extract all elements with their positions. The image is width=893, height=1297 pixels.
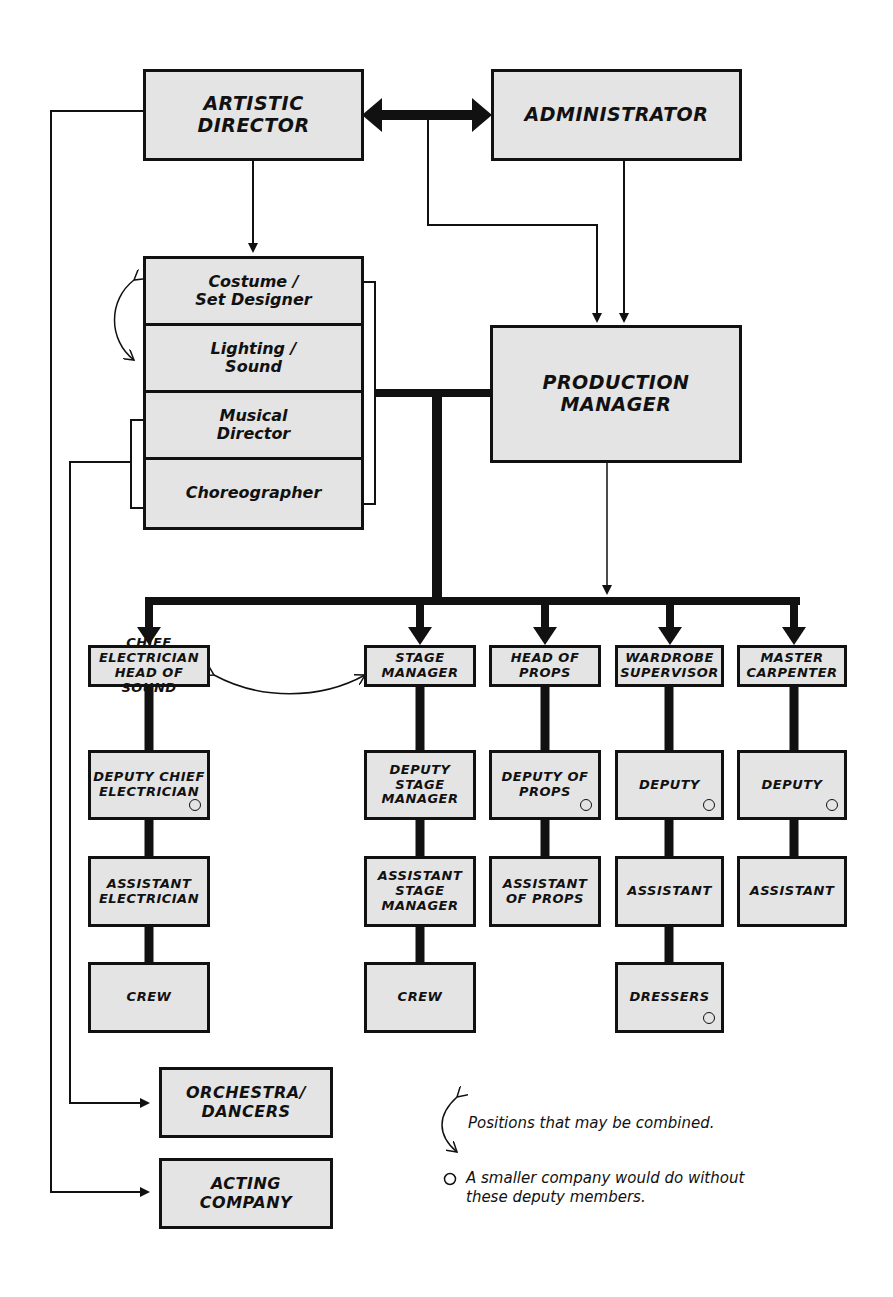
production-manager-label: Production Manager (543, 372, 690, 416)
dressers-box[interactable]: Dressers (615, 962, 724, 1033)
deputy-of-props-box[interactable]: Deputy of Props (489, 750, 601, 820)
creative-team-stack: Costume / Set Designer Lighting / Sound … (143, 256, 364, 530)
optional-marker-icon (703, 1012, 715, 1024)
musical-director-box[interactable]: Musical Director (146, 393, 361, 460)
wardrobe-supervisor-box[interactable]: Wardrobe Supervisor (615, 645, 724, 687)
optional-marker-icon (826, 799, 838, 811)
artistic-director-label: Artistic Director (197, 93, 309, 137)
assistant-stage-manager-box[interactable]: Assistant Stage Manager (364, 856, 476, 927)
deputy-chief-electrician-box[interactable]: Deputy Chief Electrician (88, 750, 210, 820)
master-carpenter-box[interactable]: Master Carpenter (737, 645, 847, 687)
head-of-props-box[interactable]: Head of Props (489, 645, 601, 687)
assistant-electrician-box[interactable]: Assistant Electrician (88, 856, 210, 927)
artistic-director-box[interactable]: Artistic Director (143, 69, 364, 161)
costume-set-designer-box[interactable]: Costume / Set Designer (146, 259, 361, 326)
stage-crew-box[interactable]: Crew (364, 962, 476, 1033)
stage-manager-box[interactable]: Stage Manager (364, 645, 476, 687)
assistant-of-props-box[interactable]: Assistant of Props (489, 856, 601, 927)
orchestra-dancers-box[interactable]: Orchestra/ Dancers (159, 1067, 333, 1138)
chief-electrician-box[interactable]: Chief Electrician Head of Sound (88, 645, 210, 687)
acting-company-box[interactable]: Acting Company (159, 1158, 333, 1229)
wardrobe-deputy-box[interactable]: Deputy (615, 750, 724, 820)
deputy-stage-manager-box[interactable]: Deputy Stage Manager (364, 750, 476, 820)
legend-combined-text: Positions that may be combined. (468, 1114, 828, 1133)
choreographer-box[interactable]: Choreographer (146, 460, 361, 527)
lighting-sound-box[interactable]: Lighting / Sound (146, 326, 361, 393)
electrics-crew-box[interactable]: Crew (88, 962, 210, 1033)
optional-marker-icon (189, 799, 201, 811)
production-manager-box[interactable]: Production Manager (490, 325, 742, 463)
carpenter-assistant-box[interactable]: Assistant (737, 856, 847, 927)
legend-optional-text: A smaller company would do without these… (466, 1169, 766, 1207)
wardrobe-assistant-box[interactable]: Assistant (615, 856, 724, 927)
administrator-box[interactable]: Administrator (491, 69, 742, 161)
administrator-label: Administrator (525, 104, 709, 126)
optional-marker-icon (703, 799, 715, 811)
optional-marker-icon (580, 799, 592, 811)
carpenter-deputy-box[interactable]: Deputy (737, 750, 847, 820)
